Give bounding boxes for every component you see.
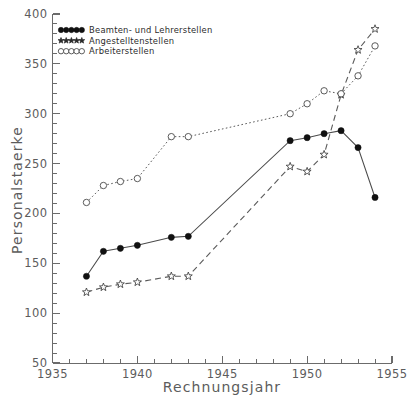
marker-open-circle (304, 101, 310, 107)
marker-filled-circle (58, 27, 63, 32)
marker-open-circle (79, 49, 84, 54)
y-tick-label: 400 (24, 7, 47, 21)
marker-open-circle (134, 175, 140, 181)
y-tick-label: 150 (24, 256, 47, 270)
personalstaerke-line-chart: 50100150200250300350400 1935194019451950… (0, 0, 408, 398)
marker-filled-circle (117, 245, 123, 251)
x-tick-label: 1940 (122, 367, 153, 381)
y-tick-label: 350 (24, 57, 47, 71)
marker-open-circle (117, 178, 123, 184)
y-tick-label: 200 (24, 206, 47, 220)
y-tick-label: 100 (24, 306, 47, 320)
marker-open-circle (168, 133, 174, 139)
marker-filled-circle (69, 27, 74, 32)
legend-swatch (58, 49, 84, 54)
legend-label: Arbeiterstellen (89, 46, 155, 56)
marker-open-circle (355, 73, 361, 79)
marker-filled-circle (83, 273, 89, 279)
x-tick-label: 1950 (292, 367, 323, 381)
marker-filled-circle (338, 128, 344, 134)
marker-filled-circle (134, 242, 140, 248)
marker-open-circle (338, 91, 344, 97)
marker-filled-circle (304, 135, 310, 141)
marker-open-circle (83, 199, 89, 205)
legend-swatch (58, 27, 84, 32)
marker-filled-circle (185, 233, 191, 239)
marker-filled-circle (355, 145, 361, 151)
marker-filled-circle (79, 27, 84, 32)
marker-filled-circle (287, 138, 293, 144)
marker-open-circle (69, 49, 74, 54)
x-axis-title: Rechnungsjahr (163, 379, 281, 395)
marker-filled-circle (372, 194, 378, 200)
y-tick-label: 300 (24, 107, 47, 121)
marker-open-circle (321, 88, 327, 94)
marker-filled-circle (321, 131, 327, 137)
marker-open-circle (63, 49, 68, 54)
legend-label: Angestelltenstellen (89, 36, 174, 46)
y-axis-title: Personalstaerke (9, 126, 25, 254)
chart-container: 50100150200250300350400 1935194019451950… (0, 0, 408, 398)
chart-background (0, 0, 408, 398)
marker-open-circle (58, 49, 63, 54)
marker-open-circle (185, 133, 191, 139)
marker-filled-circle (100, 248, 106, 254)
marker-filled-circle (168, 234, 174, 240)
x-tick-label: 1935 (37, 367, 68, 381)
marker-open-circle (372, 43, 378, 49)
marker-open-circle (74, 49, 79, 54)
x-tick-label: 1955 (377, 367, 408, 381)
marker-filled-circle (63, 27, 68, 32)
marker-filled-circle (74, 27, 79, 32)
marker-open-circle (100, 182, 106, 188)
marker-open-circle (287, 111, 293, 117)
y-tick-label: 250 (24, 157, 47, 171)
legend-label: Beamten- und Lehrerstellen (89, 25, 212, 35)
